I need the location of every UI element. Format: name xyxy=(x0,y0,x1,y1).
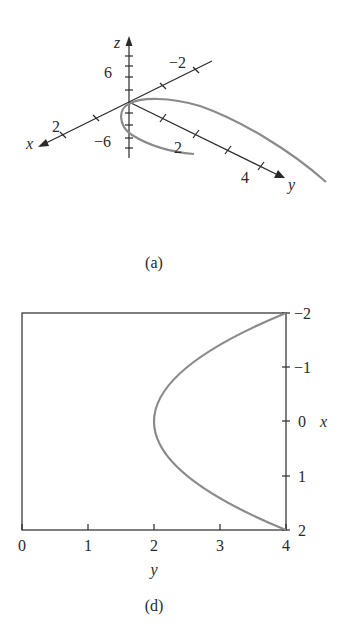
bottom-axis-ticks xyxy=(22,524,286,530)
y-tick-label-4: 4 xyxy=(241,169,249,186)
panel-a-caption: (a) xyxy=(145,254,163,272)
y-axis-label: y xyxy=(286,176,296,194)
right-tick-label-1: 1 xyxy=(298,468,306,485)
z-axis-label: z xyxy=(113,34,121,51)
x-axis-arrow-icon xyxy=(38,139,49,147)
bottom-tick-label-0: 0 xyxy=(18,537,26,554)
right-tick-label-neg1: −1 xyxy=(294,359,311,376)
panel-a-3d-plot: z 6 −6 −2 2 x 2 4 y (a) xyxy=(25,34,326,272)
panel-d-caption: (d) xyxy=(145,597,164,615)
right-tick-label-2: 2 xyxy=(298,522,306,539)
bottom-tick-label-3: 3 xyxy=(216,537,224,554)
bottom-axis-label: y xyxy=(148,561,158,579)
y-tick-label-2: 2 xyxy=(174,139,182,156)
space-curve xyxy=(121,99,326,182)
z-tick-label-neg6: −6 xyxy=(94,133,111,150)
bottom-tick-label-4: 4 xyxy=(282,537,290,554)
y-axis xyxy=(129,102,278,175)
x-tick-label-2: 2 xyxy=(52,118,60,135)
bottom-tick-label-1: 1 xyxy=(84,537,92,554)
parabola-curve xyxy=(154,313,286,530)
z-tick-label-6: 6 xyxy=(104,64,112,81)
right-axis-label: x xyxy=(319,413,327,430)
x-tick-label-neg2: −2 xyxy=(169,54,186,71)
x-axis-label: x xyxy=(25,135,33,152)
figure-canvas: z 6 −6 −2 2 x 2 4 y (a) xyxy=(0,0,351,641)
z-axis-arrow-icon xyxy=(126,36,133,46)
right-tick-label-neg2: −2 xyxy=(294,305,311,322)
panel-d-2d-plot: 0 1 2 3 4 y −2 −1 0 1 2 x (d) xyxy=(18,305,327,615)
bottom-tick-label-2: 2 xyxy=(150,537,158,554)
right-tick-label-0: 0 xyxy=(298,413,306,430)
